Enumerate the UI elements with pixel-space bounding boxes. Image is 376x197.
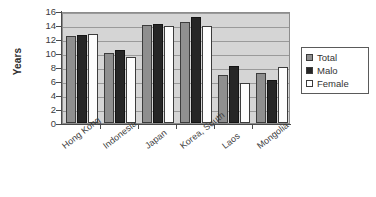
bar-male <box>77 35 87 123</box>
chart-legend: Total Malo Female <box>301 47 369 94</box>
legend-item-male: Malo <box>306 64 365 77</box>
y-tick-label: 6 <box>30 77 56 86</box>
bar-total <box>142 25 152 123</box>
bar-group <box>177 13 215 123</box>
y-tick-label-holder: 0 <box>26 124 56 125</box>
x-tick <box>214 125 215 129</box>
legend-item-female: Female <box>306 77 365 90</box>
y-tick-label: 0 <box>30 119 56 128</box>
bar-female <box>202 26 212 123</box>
x-tick <box>100 125 101 129</box>
y-tick-label: 10 <box>30 49 56 58</box>
bar-group <box>215 13 253 123</box>
legend-label-female: Female <box>317 79 349 89</box>
bar-female <box>126 57 136 124</box>
x-axis-label: Japan <box>143 128 169 151</box>
bar-male <box>153 24 163 123</box>
y-tick-label-holder: 10 <box>26 54 56 55</box>
x-tick <box>138 125 139 129</box>
bar-female <box>240 83 250 123</box>
y-tick-label-holder: 14 <box>26 26 56 27</box>
y-tick-label-holder: 6 <box>26 82 56 83</box>
bar-total <box>104 53 114 123</box>
y-tick-label-holder: 12 <box>26 40 56 41</box>
legend-label-male: Malo <box>317 66 338 76</box>
y-tick-label: 4 <box>30 91 56 100</box>
y-tick-label-holder: 2 <box>26 110 56 111</box>
x-axis-label: Laos <box>220 131 242 151</box>
bar-male <box>267 80 277 123</box>
x-tick <box>252 125 253 129</box>
bar-chart: Years 1614121086420 Hong KongIndonesiaJa… <box>0 0 376 197</box>
legend-label-total: Total <box>317 53 337 63</box>
y-tick-label-holder: 8 <box>26 68 56 69</box>
bar-group <box>101 13 139 123</box>
x-tick <box>176 125 177 129</box>
bar-group <box>253 13 290 123</box>
legend-swatch-female-icon <box>306 80 313 87</box>
y-tick-label: 14 <box>30 21 56 30</box>
legend-item-total: Total <box>306 51 365 64</box>
y-tick-label-holder: 4 <box>26 96 56 97</box>
plot-wrapper <box>62 12 290 124</box>
y-axis-title: Years <box>12 32 23 92</box>
y-tick-label-holder: 16 <box>26 12 56 13</box>
y-tick-label: 8 <box>30 63 56 72</box>
bar-male <box>191 17 201 123</box>
y-tick-label: 2 <box>30 105 56 114</box>
bar-female <box>164 26 174 123</box>
bar-female <box>278 67 288 123</box>
bar-total <box>180 22 190 124</box>
y-tick-label: 16 <box>30 7 56 16</box>
legend-swatch-male-icon <box>306 67 313 74</box>
bar-group <box>139 13 177 123</box>
y-tick-label: 12 <box>30 35 56 44</box>
bar-male <box>115 50 125 123</box>
bar-total <box>256 73 266 123</box>
bar-group <box>63 13 101 123</box>
bar-total <box>66 36 76 124</box>
bar-male <box>229 66 239 123</box>
bar-female <box>88 34 98 123</box>
plot-area <box>62 12 290 124</box>
legend-swatch-total-icon <box>306 54 313 61</box>
bar-total <box>218 75 228 123</box>
